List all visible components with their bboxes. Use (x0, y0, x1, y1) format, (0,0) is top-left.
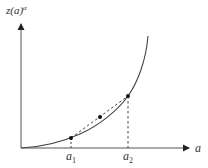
convex-curve (21, 36, 148, 148)
convex-function-diagram: z(a)α a a1 a2 (0, 0, 208, 168)
point-a1 (69, 136, 73, 140)
y-axis-label: z(a)α (5, 4, 27, 17)
tick-label-a2: a2 (123, 149, 133, 165)
point-midpoint (98, 115, 102, 119)
x-axis-label: a (195, 141, 201, 155)
tick-label-a1: a1 (66, 149, 76, 165)
point-a2 (126, 94, 130, 98)
